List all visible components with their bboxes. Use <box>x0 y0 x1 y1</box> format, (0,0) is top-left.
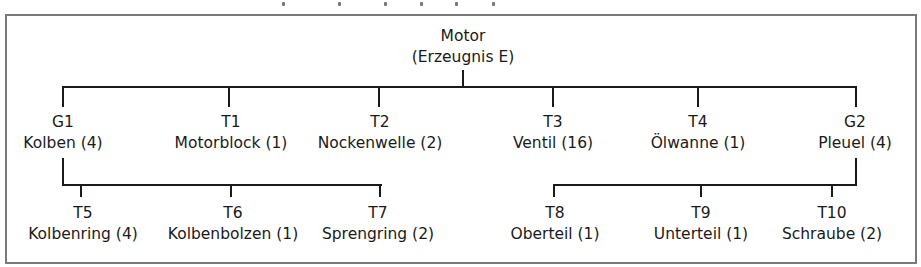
node-id: T10 <box>782 203 882 224</box>
node-label: Kolben (4) <box>23 133 102 154</box>
drop-g1 <box>62 86 64 107</box>
node-label: Ventil (16) <box>513 133 593 154</box>
node-id: T3 <box>513 112 593 133</box>
node-t6: T6 Kolbenbolzen (1) <box>168 203 298 245</box>
drop-t5 <box>80 184 82 197</box>
node-t3: T3 Ventil (16) <box>513 112 593 154</box>
drop-t3 <box>552 86 554 107</box>
node-label: Oberteil (1) <box>510 224 599 245</box>
node-label: Nockenwelle (2) <box>318 133 443 154</box>
drop-t9 <box>700 184 702 197</box>
g2-bus <box>553 184 857 186</box>
node-label: Unterteil (1) <box>654 224 748 245</box>
drop-t10 <box>831 184 833 197</box>
root-title: Motor <box>412 26 515 47</box>
drop-t2 <box>378 86 380 107</box>
root-connector <box>462 70 464 87</box>
node-label: Kolbenbolzen (1) <box>168 224 298 245</box>
node-id: T8 <box>510 203 599 224</box>
root-node: Motor (Erzeugnis E) <box>412 26 515 68</box>
drop-t6 <box>230 184 232 197</box>
drop-t8 <box>553 184 555 197</box>
node-label: Kolbenring (4) <box>28 224 138 245</box>
node-id: G1 <box>23 112 102 133</box>
node-label: Motorblock (1) <box>175 133 288 154</box>
node-t10: T10 Schraube (2) <box>782 203 882 245</box>
g2-stem <box>855 158 857 186</box>
node-g1: G1 Kolben (4) <box>23 112 102 154</box>
node-label: Schraube (2) <box>782 224 882 245</box>
g1-bus <box>62 184 382 186</box>
node-id: G2 <box>818 112 892 133</box>
node-id: T6 <box>168 203 298 224</box>
node-id: T5 <box>28 203 138 224</box>
node-t4: T4 Ölwanne (1) <box>651 112 746 154</box>
node-t7: T7 Sprengring (2) <box>322 203 434 245</box>
node-label: Pleuel (4) <box>818 133 892 154</box>
drop-t7 <box>379 184 381 197</box>
node-t2: T2 Nockenwelle (2) <box>318 112 443 154</box>
g1-stem <box>62 158 64 186</box>
drop-t4 <box>697 86 699 107</box>
level1-bus <box>62 86 857 88</box>
drop-g2 <box>855 86 857 107</box>
node-id: T2 <box>318 112 443 133</box>
node-g2: G2 Pleuel (4) <box>818 112 892 154</box>
node-id: T9 <box>654 203 748 224</box>
node-label: Ölwanne (1) <box>651 133 746 154</box>
node-t9: T9 Unterteil (1) <box>654 203 748 245</box>
cropped-caption-fragment <box>0 0 921 6</box>
node-t5: T5 Kolbenring (4) <box>28 203 138 245</box>
root-subtitle: (Erzeugnis E) <box>412 47 515 68</box>
drop-t1 <box>228 86 230 107</box>
node-id: T7 <box>322 203 434 224</box>
node-t8: T8 Oberteil (1) <box>510 203 599 245</box>
node-label: Sprengring (2) <box>322 224 434 245</box>
node-t1: T1 Motorblock (1) <box>175 112 288 154</box>
node-id: T4 <box>651 112 746 133</box>
node-id: T1 <box>175 112 288 133</box>
